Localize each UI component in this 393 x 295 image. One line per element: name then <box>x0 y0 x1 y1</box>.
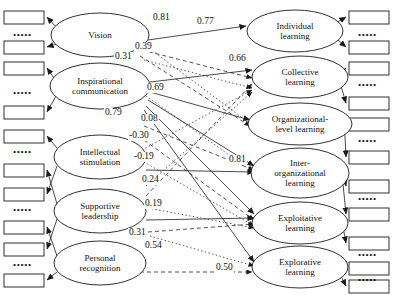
path-coefficient: 0.08 <box>140 114 159 124</box>
path-coefficient: 0.39 <box>134 42 153 52</box>
indicator-ellipsis: ••••• <box>13 148 32 157</box>
construct-ellipse-explorative[interactable] <box>252 246 348 288</box>
right-measurement-arrows <box>336 17 346 286</box>
construct-ellipse-organizational[interactable] <box>248 103 352 145</box>
indicator-box <box>4 188 44 201</box>
indicator-box <box>4 130 44 143</box>
path-coefficient: 0.31 <box>114 52 133 62</box>
path-coefficient: 0.31 <box>128 228 147 238</box>
construct-ellipse-inspirational[interactable] <box>50 63 150 109</box>
construct-ellipse-exploitative[interactable] <box>252 202 348 244</box>
path-coefficient: 0.24 <box>141 175 160 185</box>
path-coefficient: 0.54 <box>144 241 163 251</box>
indicator-ellipsis: ••••• <box>13 261 32 270</box>
indicator-box <box>4 221 44 234</box>
path-coefficient: 0.50 <box>215 263 234 273</box>
path-coefficient: 0.79 <box>104 108 123 118</box>
path-coefficient: 0.81 <box>228 155 247 165</box>
indicator-box <box>4 62 44 75</box>
indicator-box <box>4 11 44 24</box>
indicator-box <box>349 41 389 54</box>
indicator-box <box>349 237 389 250</box>
indicator-ellipsis: ••••• <box>13 31 32 40</box>
indicator-box <box>4 164 44 177</box>
path-coefficient: 0.19 <box>144 199 163 209</box>
construct-ellipse-group <box>50 10 352 288</box>
path-coefficient: -0.19 <box>133 152 155 162</box>
indicator-ellipsis: ••••• <box>358 31 377 40</box>
path-coefficient: 0.66 <box>228 54 247 64</box>
path-coefficient: 0.77 <box>196 17 215 27</box>
sem-path-diagram: 0.810.390.310.690.770.660.790.08-0.30-0.… <box>0 0 393 295</box>
indicator-box <box>4 106 44 119</box>
path-coefficient: 0.81 <box>152 13 171 23</box>
indicator-ellipsis: ••••• <box>13 89 32 98</box>
indicator-box <box>349 262 389 275</box>
indicator-box <box>349 118 389 131</box>
indicator-box <box>349 208 389 221</box>
indicator-box <box>4 243 44 256</box>
indicator-box <box>349 11 389 24</box>
construct-ellipse-personal[interactable] <box>54 241 146 285</box>
indicator-ellipsis: ••••• <box>358 81 377 90</box>
indicator-box <box>349 62 389 75</box>
path-coefficient: 0.69 <box>146 83 165 93</box>
construct-ellipse-individual[interactable] <box>247 10 343 52</box>
indicator-ellipsis: ••••• <box>358 137 377 146</box>
indicator-box <box>4 41 44 54</box>
indicator-ellipsis: ••••• <box>358 276 377 285</box>
indicator-box <box>349 151 389 164</box>
indicator-ellipsis: ••••• <box>358 195 377 204</box>
indicator-box <box>4 274 44 287</box>
path-coefficient: -0.30 <box>128 131 150 141</box>
construct-ellipse-interorg[interactable] <box>251 148 349 198</box>
indicator-box <box>349 97 389 110</box>
diagram-canvas <box>0 0 393 295</box>
left-measurement-arrows <box>47 17 57 280</box>
indicator-ellipsis: ••••• <box>13 206 32 215</box>
construct-ellipse-collective[interactable] <box>252 56 348 98</box>
indicator-ellipsis: ••••• <box>358 251 377 260</box>
indicator-box <box>349 180 389 193</box>
